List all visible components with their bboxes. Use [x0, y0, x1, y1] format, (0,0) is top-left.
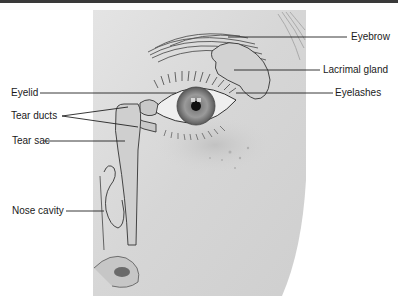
label-nose-cavity: Nose cavity — [12, 205, 64, 217]
label-tear-ducts: Tear ducts — [11, 110, 57, 122]
label-tear-sac: Tear sac — [12, 135, 50, 147]
label-eyebrow: Eyebrow — [351, 31, 390, 43]
label-eyelid: Eyelid — [11, 87, 38, 99]
label-eyelashes: Eyelashes — [335, 87, 381, 99]
label-lacrimal-gland: Lacrimal gland — [323, 64, 388, 76]
eye-anatomy-illustration — [0, 0, 398, 303]
